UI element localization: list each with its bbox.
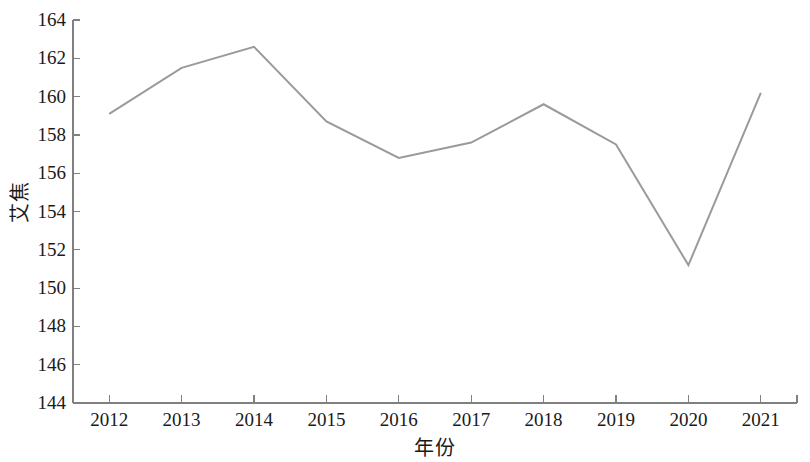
x-tick-label: 2018 (525, 409, 563, 431)
x-tick-label: 2012 (90, 409, 128, 431)
axis-tick-marks (73, 20, 797, 403)
x-tick-label: 2021 (742, 409, 780, 431)
x-axis-title: 年份 (73, 432, 797, 461)
x-tick-label: 2019 (597, 409, 635, 431)
line-chart: 艾焦 144146148150152154156158160162164 201… (0, 0, 810, 462)
x-tick-label: 2014 (235, 409, 273, 431)
axis-lines (73, 20, 797, 403)
x-tick-label: 2017 (452, 409, 490, 431)
data-series-line (109, 47, 761, 265)
x-tick-label: 2020 (669, 409, 707, 431)
x-tick-label: 2013 (163, 409, 201, 431)
x-tick-label: 2015 (307, 409, 345, 431)
x-tick-label: 2016 (380, 409, 418, 431)
plot-area (0, 0, 810, 462)
